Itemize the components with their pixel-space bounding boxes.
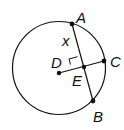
geometry-diagram: A B C D E x <box>0 0 124 130</box>
label-b: B <box>93 108 103 125</box>
point-c <box>102 59 107 64</box>
label-e: E <box>72 72 83 89</box>
label-c: C <box>110 53 121 70</box>
point-a <box>70 22 75 27</box>
point-d <box>57 71 61 75</box>
point-e <box>82 65 86 69</box>
chord-ab <box>72 24 93 101</box>
right-angle-marker <box>69 57 78 65</box>
label-a: A <box>75 9 86 26</box>
point-b <box>91 99 96 104</box>
label-d: D <box>51 54 62 71</box>
label-x: x <box>61 32 70 49</box>
